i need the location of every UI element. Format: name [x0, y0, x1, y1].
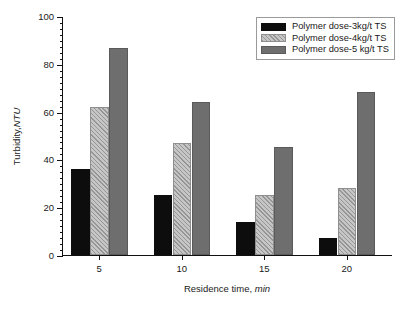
y-axis-minor-tick — [60, 202, 64, 203]
y-axis-minor-tick — [60, 59, 64, 60]
x-axis-tick-label: 20 — [341, 264, 352, 274]
x-axis-tick — [264, 255, 265, 260]
legend-label: Polymer dose-3kg/t TS — [292, 22, 386, 31]
x-axis-tick-label: 15 — [259, 264, 270, 274]
y-axis-minor-tick — [60, 238, 64, 239]
y-axis-minor-tick — [60, 29, 64, 30]
y-axis-minor-tick — [60, 244, 64, 245]
x-axis-tick-label: 5 — [97, 264, 102, 274]
y-axis-minor-tick — [60, 190, 64, 191]
y-axis-minor-tick — [60, 232, 64, 233]
y-axis-minor-tick — [60, 95, 64, 96]
x-axis-tick-label: 10 — [176, 264, 187, 274]
bar — [109, 48, 128, 255]
y-axis-minor-tick — [60, 71, 64, 72]
y-axis-major-tick — [57, 113, 63, 114]
y-axis-minor-tick — [60, 226, 64, 227]
y-axis-minor-tick — [60, 35, 64, 36]
y-axis-major-tick — [57, 17, 63, 18]
x-axis-tick — [182, 255, 183, 260]
y-axis-minor-tick — [60, 220, 64, 221]
legend-swatch-icon — [261, 23, 286, 31]
legend-item: Polymer dose-3kg/t TS — [261, 21, 389, 33]
chart-figure: Turbidity, NTU 020406080100 5101520 Resi… — [0, 0, 407, 309]
y-axis-minor-tick — [60, 154, 64, 155]
bar — [338, 188, 357, 255]
y-axis-major-tick — [57, 65, 63, 66]
x-axis-tick — [347, 255, 348, 260]
y-axis-title-text: Turbidity, — [11, 127, 22, 165]
y-axis-minor-tick — [60, 83, 64, 84]
legend-item: Polymer dose-4kg/t TS — [261, 33, 389, 45]
y-axis-minor-tick — [60, 214, 64, 215]
y-axis-major-tick — [57, 208, 63, 209]
y-axis-title: Turbidity, NTU — [9, 17, 23, 256]
y-axis-minor-tick — [60, 131, 64, 132]
y-axis-minor-tick — [60, 125, 64, 126]
y-axis-minor-tick — [60, 77, 64, 78]
y-axis-minor-tick — [60, 47, 64, 48]
bar — [71, 169, 90, 255]
y-axis-minor-tick — [60, 137, 64, 138]
y-axis-minor-tick — [60, 178, 64, 179]
y-axis-tick-label: 40 — [43, 156, 54, 166]
y-axis-tick-label: 60 — [43, 108, 54, 118]
bar — [154, 195, 173, 255]
y-axis-minor-tick — [60, 89, 64, 90]
x-axis-title-unit: min — [255, 283, 270, 294]
y-axis-minor-tick — [60, 23, 64, 24]
y-axis-minor-tick — [60, 184, 64, 185]
x-axis-title: Residence time, min — [62, 283, 392, 294]
y-axis-tick-label: 0 — [49, 251, 54, 261]
y-axis-minor-tick — [60, 166, 64, 167]
y-axis-minor-tick — [60, 53, 64, 54]
y-axis-minor-tick — [60, 119, 64, 120]
x-axis-tick — [99, 255, 100, 260]
bar — [90, 107, 109, 255]
legend-label: Polymer dose-4kg/t TS — [292, 34, 386, 43]
chart-legend: Polymer dose-3kg/t TSPolymer dose-4kg/t … — [256, 17, 395, 60]
y-axis-major-tick — [57, 160, 63, 161]
legend-swatch-icon — [261, 46, 286, 54]
y-axis-minor-tick — [60, 196, 64, 197]
y-axis-tick-label: 100 — [38, 12, 54, 22]
y-axis-minor-tick — [60, 148, 64, 149]
y-axis-minor-tick — [60, 107, 64, 108]
bar — [236, 222, 255, 255]
legend-label: Polymer dose-5 kg/t TS — [292, 45, 389, 54]
y-axis-minor-tick — [60, 101, 64, 102]
y-axis-tick-label: 80 — [43, 60, 54, 70]
x-axis-title-text: Residence time, — [184, 283, 255, 294]
legend-item: Polymer dose-5 kg/t TS — [261, 44, 389, 56]
bar — [173, 143, 192, 255]
bar — [192, 102, 211, 255]
legend-swatch-icon — [261, 34, 286, 42]
bar — [357, 92, 376, 255]
bar — [274, 147, 293, 255]
y-axis-title-unit: NTU — [11, 108, 22, 128]
y-axis-minor-tick — [60, 142, 64, 143]
y-axis-minor-tick — [60, 250, 64, 251]
y-axis-major-tick — [57, 256, 63, 257]
y-axis-minor-tick — [60, 172, 64, 173]
y-axis-minor-tick — [60, 41, 64, 42]
y-axis-tick-label: 20 — [43, 203, 54, 213]
bar — [255, 195, 274, 255]
bar — [319, 238, 338, 255]
